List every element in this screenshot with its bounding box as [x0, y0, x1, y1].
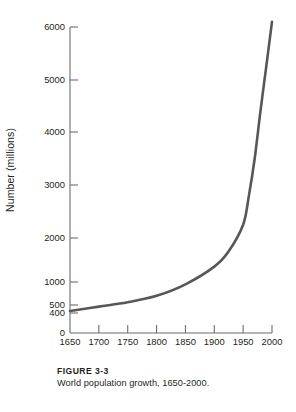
x-tick-label-1850: 1850 [175, 336, 196, 347]
x-tick-label-2000: 2000 [262, 336, 283, 347]
x-axis-tick-labels: 16501700175018001850190019502000 [60, 336, 283, 347]
figure-caption-text: World population growth, 1650-2000. [57, 378, 289, 390]
population-line-chart: 0400500100020003000400050006000 16501700… [0, 0, 296, 350]
y-tick-label-5000: 5000 [44, 74, 65, 85]
chart-plot-area: 0400500100020003000400050006000 16501700… [0, 0, 296, 350]
y-tick-label-2000: 2000 [44, 232, 65, 243]
x-tick-label-1900: 1900 [204, 336, 225, 347]
y-axis-tick-labels: 0400500100020003000400050006000 [44, 21, 65, 338]
y-tick-label-3000: 3000 [44, 179, 65, 190]
y-tick-label-1000: 1000 [44, 276, 65, 287]
y-tick-label-6000: 6000 [44, 21, 65, 32]
x-tick-label-1700: 1700 [88, 336, 109, 347]
figure-container: 0400500100020003000400050006000 16501700… [0, 0, 296, 412]
y-tick-label-500: 500 [49, 299, 65, 310]
x-tick-label-1950: 1950 [233, 336, 254, 347]
figure-caption: FIGURE 3-3 World population growth, 1650… [57, 366, 289, 390]
x-tick-label-1750: 1750 [117, 336, 138, 347]
population-growth-curve [70, 22, 272, 311]
x-axis-tick-marks [99, 325, 272, 333]
figure-number-label: FIGURE 3-3 [57, 366, 289, 377]
y-tick-label-4000: 4000 [44, 126, 65, 137]
y-axis-tick-marks [70, 27, 78, 313]
x-tick-label-1800: 1800 [146, 336, 167, 347]
x-tick-label-1650: 1650 [60, 336, 81, 347]
